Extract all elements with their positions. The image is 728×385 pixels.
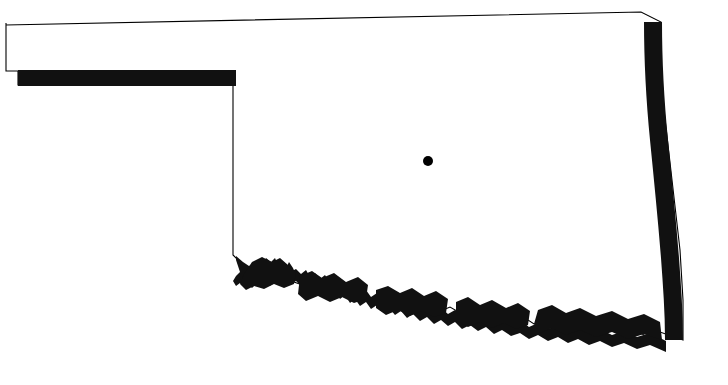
panhandle-southern-boundary	[18, 70, 236, 86]
map-canvas	[0, 0, 728, 385]
oklahoma-state-map	[0, 0, 728, 385]
capital-dot	[423, 156, 433, 166]
